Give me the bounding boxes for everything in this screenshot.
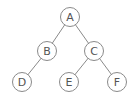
node-c: C bbox=[85, 42, 104, 61]
node-b-label: B bbox=[43, 45, 51, 58]
node-f-label: F bbox=[114, 76, 120, 89]
node-e: E bbox=[60, 73, 79, 92]
node-d: D bbox=[13, 73, 32, 92]
node-d-label: D bbox=[18, 76, 26, 89]
node-e-label: E bbox=[66, 76, 73, 89]
tree-diagram: A B C D E F bbox=[0, 0, 137, 98]
node-c-label: C bbox=[90, 45, 98, 58]
node-f: F bbox=[108, 73, 127, 92]
node-a-label: A bbox=[66, 11, 74, 24]
node-a: A bbox=[61, 8, 80, 27]
node-b: B bbox=[38, 42, 57, 61]
